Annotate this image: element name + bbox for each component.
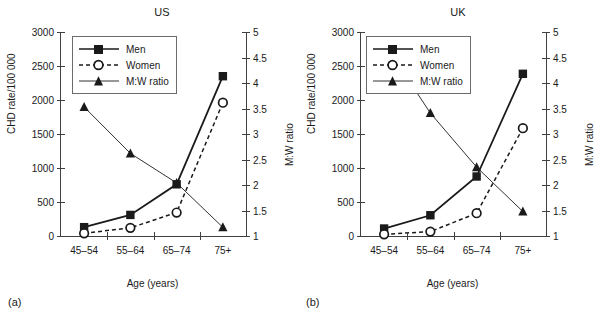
y-tick-right xyxy=(542,160,550,161)
x-tick-label: 75+ xyxy=(514,245,531,256)
y-tick-left xyxy=(357,236,365,237)
data-point-marker xyxy=(426,108,435,117)
legend-item-women: Women xyxy=(372,57,463,73)
legend-item-mw-ratio: M:W ratio xyxy=(372,73,463,89)
y-tick-right xyxy=(542,58,550,59)
y-tick-right xyxy=(242,58,250,59)
y-tick-label-left: 1000 xyxy=(32,163,54,174)
y-tick-label-right: 4 xyxy=(253,78,259,89)
legend-key-women-icon xyxy=(78,58,120,72)
y-tick-label-right: 1 xyxy=(553,231,559,242)
data-point-marker xyxy=(426,227,435,236)
x-tick-label: 65–74 xyxy=(163,245,191,256)
data-point-marker xyxy=(126,224,135,233)
x-tick-label: 45–54 xyxy=(70,245,98,256)
y-tick-left xyxy=(357,168,365,169)
legend-key-mw-ratio-icon xyxy=(372,74,414,88)
legend-item-men: Men xyxy=(78,41,169,57)
y-tick-label-right: 5 xyxy=(253,27,259,38)
y-tick-left xyxy=(57,32,65,33)
y-tick-label-left: 2000 xyxy=(32,95,54,106)
y-tick-right xyxy=(542,83,550,84)
y-tick-right xyxy=(242,185,250,186)
legend-uk: Men Women M:W ratio xyxy=(366,36,471,94)
x-axis-label-us: Age (years) xyxy=(60,278,245,289)
y-tick-left xyxy=(57,202,65,203)
y-tick-right xyxy=(242,109,250,110)
legend-item-men: Men xyxy=(372,41,463,57)
y-tick-label-right: 3 xyxy=(253,129,259,140)
y-tick-right xyxy=(542,185,550,186)
x-tick-label: 75+ xyxy=(214,245,231,256)
y-tick-right xyxy=(542,32,550,33)
y-tick-label-left: 1000 xyxy=(332,163,354,174)
data-point-marker xyxy=(472,172,480,180)
y-tick-label-right: 1 xyxy=(253,231,259,242)
y-tick-label-right: 2 xyxy=(553,180,559,191)
y-tick-right xyxy=(242,134,250,135)
data-point-marker xyxy=(519,70,527,78)
series-men xyxy=(80,72,227,231)
x-tick xyxy=(200,232,201,240)
legend-us: Men Women M:W ratio xyxy=(72,36,177,94)
y-tick-left xyxy=(357,66,365,67)
legend-item-mw-ratio: M:W ratio xyxy=(78,73,169,89)
data-point-marker xyxy=(172,208,181,217)
data-point-marker xyxy=(80,102,89,111)
y-axis-label-right-us: M:W ratio xyxy=(284,123,295,166)
series-men xyxy=(380,70,527,233)
y-tick-label-right: 4.5 xyxy=(553,52,567,63)
data-point-marker xyxy=(80,229,89,238)
x-tick-label: 55–64 xyxy=(416,245,444,256)
panel-caption-a: (a) xyxy=(8,296,21,308)
panel-title-uk: UK xyxy=(300,6,600,18)
y-tick-label-right: 1.5 xyxy=(253,205,267,216)
y-tick-label-right: 4.5 xyxy=(253,52,267,63)
y-tick-label-left: 2000 xyxy=(332,95,354,106)
y-tick-label-left: 3000 xyxy=(332,27,354,38)
legend-label-women: Women xyxy=(126,60,160,71)
legend-label-mw-ratio: M:W ratio xyxy=(420,76,463,87)
y-tick-right xyxy=(242,32,250,33)
x-tick-label: 65–74 xyxy=(463,245,491,256)
y-tick-label-left: 0 xyxy=(48,231,54,242)
y-tick-left xyxy=(57,66,65,67)
x-axis-label-uk: Age (years) xyxy=(360,278,545,289)
data-point-marker xyxy=(380,230,389,239)
y-axis-label-left-uk: CHD rate/100 000 xyxy=(306,53,317,134)
y-tick-label-right: 5 xyxy=(553,27,559,38)
y-tick-label-right: 1.5 xyxy=(553,205,567,216)
x-tick xyxy=(500,232,501,240)
legend-label-mw-ratio: M:W ratio xyxy=(126,76,169,87)
series-women xyxy=(380,124,527,239)
legend-label-women: Women xyxy=(420,60,454,71)
data-point-marker xyxy=(219,98,228,107)
y-axis-label-right-uk: M:W ratio xyxy=(584,123,595,166)
x-tick-label: 55–64 xyxy=(116,245,144,256)
y-tick-right xyxy=(542,109,550,110)
y-tick-label-left: 500 xyxy=(337,197,354,208)
x-tick xyxy=(407,232,408,240)
y-tick-right xyxy=(242,83,250,84)
y-tick-right xyxy=(542,134,550,135)
y-tick-left xyxy=(357,134,365,135)
y-tick-left xyxy=(357,202,365,203)
x-tick xyxy=(454,232,455,240)
y-tick-label-right: 2.5 xyxy=(253,154,267,165)
y-tick-label-right: 2 xyxy=(253,180,259,191)
y-tick-label-left: 3000 xyxy=(32,27,54,38)
panel-us: US CHD rate/100 000 M:W ratio Age (years… xyxy=(0,0,300,320)
y-axis-label-left-us: CHD rate/100 000 xyxy=(6,53,17,134)
y-tick-right xyxy=(542,211,550,212)
panel-uk: UK CHD rate/100 000 M:W ratio Age (years… xyxy=(300,0,600,320)
panel-title-us: US xyxy=(0,6,312,18)
legend-label-men: Men xyxy=(126,44,145,55)
y-tick-label-right: 3.5 xyxy=(253,103,267,114)
y-tick-label-left: 2500 xyxy=(332,61,354,72)
x-tick xyxy=(107,232,108,240)
y-tick-left xyxy=(57,134,65,135)
legend-key-men-icon xyxy=(78,42,120,56)
x-tick xyxy=(154,232,155,240)
x-tick-label: 45–54 xyxy=(370,245,398,256)
data-point-marker xyxy=(126,211,134,219)
